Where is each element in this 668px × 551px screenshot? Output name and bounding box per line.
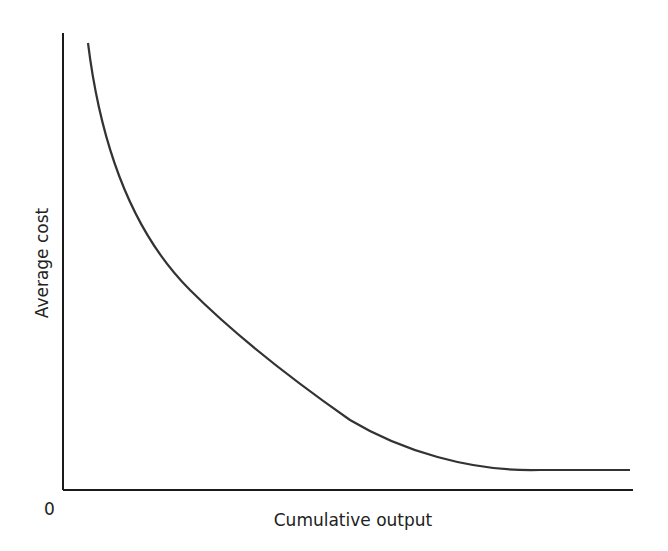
y-axis-label: Average cost [32,207,52,318]
average-cost-curve [88,43,630,470]
chart: 0 Cumulative output Average cost [0,0,668,551]
origin-label: 0 [44,499,55,519]
x-axis-label: Cumulative output [274,510,433,530]
